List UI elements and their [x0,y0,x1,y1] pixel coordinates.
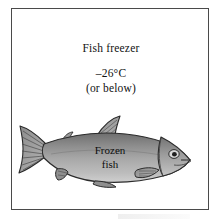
fish-tail-icon [19,126,45,173]
pelvic-fin-icon [56,169,68,180]
page-edge-artifact [118,214,190,219]
fish-icon [11,113,201,195]
freezer-title: Fish freezer [12,41,210,55]
freezer-label-block: Fish freezer –26°C (or below) [12,41,210,95]
fish-eye-icon [169,150,179,159]
figure-root: Fish freezer –26°C (or below) [0,0,220,223]
temperature-value: –26°C [12,66,210,80]
temperature-qualifier: (or below) [12,81,210,95]
